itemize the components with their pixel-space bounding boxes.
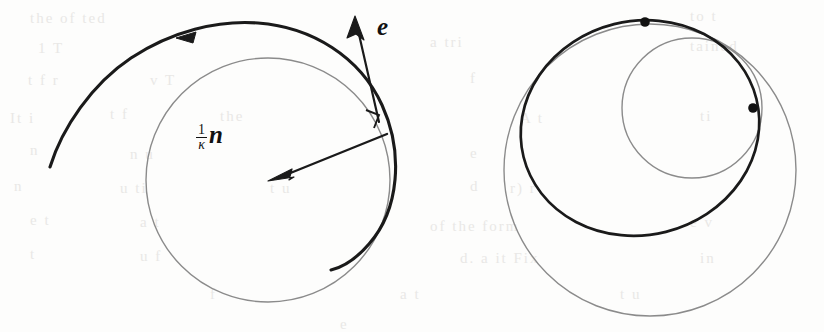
osculating-circle-gray: [146, 58, 390, 302]
normal-vector-symbol: n: [209, 121, 223, 148]
tangent-vector-arrow: [347, 16, 379, 122]
tangent-vector-symbol: e: [377, 13, 388, 40]
evolute-circles-diagram: [498, 0, 796, 316]
fraction-denominator: κ: [196, 138, 207, 152]
figure-page: the of tedto t1 Ta tritainedt f rv TfIt …: [0, 0, 824, 332]
normal-vector-label: 1 κ n: [196, 121, 223, 153]
figure-canvas: [0, 0, 824, 332]
normal-vector-arrow: [268, 134, 387, 181]
small-gray-circle: [622, 38, 762, 178]
curvature-radius-fraction: 1 κ: [196, 123, 207, 153]
marker-dot-top: [640, 17, 650, 27]
dark-oval-curve: [498, 0, 783, 261]
large-gray-circle: [504, 24, 796, 316]
tangent-vector-label: e: [377, 13, 388, 41]
osculating-circle-diagram: [50, 16, 396, 302]
marker-dot-right: [748, 103, 758, 113]
fraction-numerator: 1: [196, 123, 207, 138]
